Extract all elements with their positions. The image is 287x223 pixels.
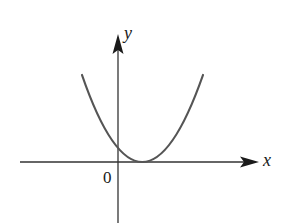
parabola-curve: [82, 75, 203, 162]
parabola-graph: 0 y x: [0, 0, 287, 223]
graph-canvas: [0, 0, 287, 223]
y-axis-label: y: [124, 24, 132, 42]
origin-label: 0: [103, 169, 112, 186]
y-axis: [113, 34, 124, 223]
x-axis-label: x: [263, 151, 271, 169]
